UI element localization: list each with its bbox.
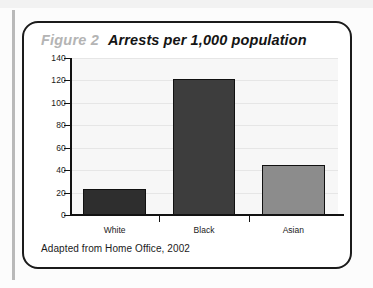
- figure-source-caption: Adapted from Home Office, 2002: [41, 243, 190, 254]
- gridline: [70, 58, 338, 59]
- x-axis-tick-label: Asian: [283, 225, 304, 235]
- figure-title: Figure 2 Arrests per 1,000 population: [41, 32, 307, 48]
- y-axis-tick-mark: [64, 193, 70, 194]
- x-axis-tick-mark: [159, 216, 160, 222]
- y-axis-tick-label: 100: [32, 98, 66, 108]
- plot-area: [70, 58, 338, 215]
- page-margin-rule: [12, 10, 15, 280]
- y-axis-tick-mark: [64, 148, 70, 149]
- x-axis-line: [70, 214, 344, 216]
- y-axis-tick-label: 20: [32, 188, 66, 198]
- x-axis-tick-label: White: [104, 225, 126, 235]
- y-axis-tick-label: 120: [32, 75, 66, 85]
- figure-heading-label: Arrests per 1,000 population: [108, 32, 307, 48]
- y-axis-tick-label: 60: [32, 143, 66, 153]
- y-axis-tick-mark: [64, 103, 70, 104]
- bar-chart: 020406080100120140 WhiteBlackAsian: [34, 56, 344, 236]
- figure-number-label: Figure 2: [41, 32, 99, 48]
- y-axis-line: [70, 58, 72, 215]
- y-axis-tick-label: 40: [32, 165, 66, 175]
- page-top-band: [0, 0, 373, 8]
- x-axis-tick-label: Black: [194, 225, 215, 235]
- y-axis-tick-label: 80: [32, 120, 66, 130]
- x-axis-tick-mark: [249, 216, 250, 222]
- bar-asian: [262, 165, 325, 215]
- bar-white: [83, 189, 146, 215]
- y-axis-tick-mark: [64, 170, 70, 171]
- y-axis-tick-label: 140: [32, 53, 66, 63]
- y-axis-tick-mark: [64, 125, 70, 126]
- y-axis-tick-mark: [64, 58, 70, 59]
- y-axis-tick-label: 0: [32, 210, 66, 220]
- y-axis-tick-mark: [64, 215, 70, 216]
- y-axis-tick-mark: [64, 80, 70, 81]
- bar-black: [173, 79, 236, 215]
- figure-frame: Figure 2 Arrests per 1,000 population 02…: [22, 21, 352, 269]
